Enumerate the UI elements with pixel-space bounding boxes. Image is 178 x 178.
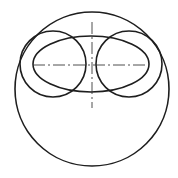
centerlines-group [33,22,149,108]
right-circle [96,31,162,97]
drawing-canvas [0,0,178,178]
left-circle [20,31,86,97]
technical-drawing [0,0,178,178]
central-ellipse [33,36,149,92]
